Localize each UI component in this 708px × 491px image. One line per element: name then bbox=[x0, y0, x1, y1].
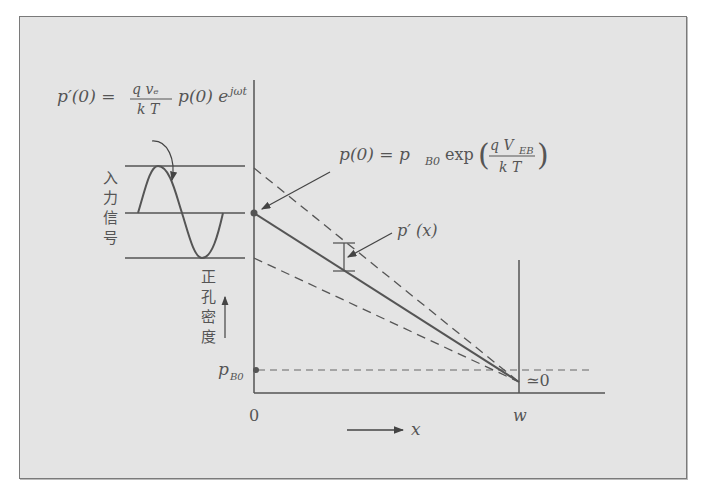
p0-pointer-arrow bbox=[262, 172, 330, 209]
p0-dot bbox=[251, 210, 258, 217]
svg-text:exp: exp bbox=[445, 145, 474, 164]
svg-text:k T: k T bbox=[137, 101, 161, 117]
dc-profile-solid bbox=[254, 213, 519, 382]
svg-text:号: 号 bbox=[103, 229, 118, 247]
svg-text:): ) bbox=[537, 137, 549, 172]
w-label: w bbox=[513, 406, 527, 425]
svg-text:p: p bbox=[218, 359, 229, 379]
upper-dashed-profile bbox=[254, 168, 519, 382]
approx-zero-label: ≃0 bbox=[526, 371, 550, 390]
perturbation-pointer-arrow bbox=[348, 233, 392, 257]
boundary-formula: p(0) = p B0 exp ( q V EB k T ) bbox=[339, 137, 549, 175]
lower-dashed-profile bbox=[254, 258, 519, 382]
svg-text:q vₑ: q vₑ bbox=[132, 81, 159, 97]
pb0-dot bbox=[253, 367, 259, 373]
perturbation-label: p′ (x) bbox=[397, 221, 437, 240]
svg-text:jωt: jωt bbox=[227, 85, 247, 98]
signal-formula: p′(0) = q vₑ k T p(0) e jωt bbox=[57, 81, 247, 117]
pb0-label: p B0 bbox=[218, 359, 244, 382]
svg-text:B0: B0 bbox=[229, 371, 244, 382]
svg-text:孔: 孔 bbox=[201, 288, 216, 306]
svg-text:EB: EB bbox=[518, 145, 534, 156]
svg-text:力: 力 bbox=[103, 189, 118, 207]
origin-label: 0 bbox=[249, 406, 259, 425]
input-signal-label: 入 力 信 号 bbox=[103, 169, 118, 247]
svg-text:B0: B0 bbox=[424, 155, 440, 168]
svg-text:密: 密 bbox=[201, 308, 216, 326]
hole-density-label: 正 孔 密 度 bbox=[201, 268, 216, 346]
svg-text:q V: q V bbox=[490, 137, 515, 153]
signal-pointer-arrow bbox=[152, 141, 173, 180]
svg-text:p(0) e: p(0) e bbox=[178, 86, 228, 106]
svg-text:p′(0) =: p′(0) = bbox=[57, 86, 115, 106]
x-axis-label: x bbox=[411, 419, 421, 439]
svg-text:正: 正 bbox=[201, 268, 216, 286]
svg-text:(: ( bbox=[478, 137, 490, 172]
input-sine-wave bbox=[138, 166, 223, 258]
svg-text:k T: k T bbox=[499, 159, 523, 175]
svg-text:信: 信 bbox=[103, 209, 118, 227]
svg-text:入: 入 bbox=[103, 169, 118, 187]
svg-text:p(0) = p: p(0) = p bbox=[339, 144, 410, 164]
svg-text:度: 度 bbox=[201, 328, 216, 346]
hole-density-diagram: p′(0) = q vₑ k T p(0) e jωt p(0) = p B0 … bbox=[0, 0, 708, 491]
